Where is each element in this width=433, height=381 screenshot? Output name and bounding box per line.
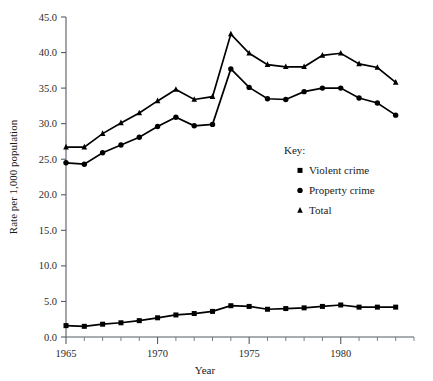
legend-label-property-crime: Property crime: [309, 184, 375, 196]
legend-marker-triangle: [297, 207, 303, 213]
marker-square-1973: [210, 309, 215, 314]
marker-circle-1966: [82, 162, 87, 167]
marker-square-1968: [118, 320, 123, 325]
y-tick-label-40.0: 40.0: [39, 47, 57, 58]
marker-circle-1972: [192, 123, 197, 128]
x-tick-label-1970: 1970: [147, 348, 168, 359]
marker-square-1974: [228, 303, 233, 308]
crime-rate-line-chart: 0.05.010.015.020.025.030.035.040.045.0 1…: [0, 0, 433, 381]
x-tick-label-1980: 1980: [330, 348, 351, 359]
marker-circle-1976: [265, 96, 270, 101]
marker-circle-1982: [375, 100, 380, 105]
data-series-group: [63, 31, 398, 329]
legend-marker-circle: [297, 188, 302, 193]
marker-square-1976: [265, 307, 270, 312]
series-property-crime: [63, 66, 398, 167]
marker-square-1969: [137, 318, 142, 323]
marker-circle-1977: [283, 97, 288, 102]
marker-circle-1983: [393, 112, 398, 117]
y-axis-title: Rate per 1,000 population: [7, 119, 19, 234]
series-line-1: [66, 69, 396, 164]
marker-square-1970: [155, 315, 160, 320]
marker-circle-1971: [173, 115, 178, 120]
legend-label-total: Total: [309, 204, 331, 216]
marker-triangle-1971: [173, 86, 179, 92]
marker-circle-1974: [228, 66, 233, 71]
marker-triangle-1974: [228, 31, 234, 37]
chart-canvas: 0.05.010.015.020.025.030.035.040.045.0 1…: [0, 0, 433, 381]
marker-square-1965: [64, 323, 69, 328]
marker-square-1967: [100, 322, 105, 327]
marker-square-1979: [320, 304, 325, 309]
series-violent-crime: [64, 303, 399, 329]
marker-square-1983: [393, 305, 398, 310]
marker-circle-1981: [356, 95, 361, 100]
series-total: [63, 31, 398, 150]
marker-square-1980: [338, 303, 343, 308]
y-tick-label-30.0: 30.0: [39, 118, 57, 129]
y-tick-label-25.0: 25.0: [39, 154, 57, 165]
x-axis: 1965197019751980: [56, 337, 415, 359]
marker-circle-1965: [63, 160, 68, 165]
x-tick-label-1975: 1975: [239, 348, 260, 359]
marker-square-1975: [247, 304, 252, 309]
y-tick-label-15.0: 15.0: [39, 225, 57, 236]
marker-square-1971: [173, 312, 178, 317]
marker-square-1978: [302, 305, 307, 310]
marker-square-1977: [283, 306, 288, 311]
x-axis-title: Year: [195, 364, 216, 376]
y-tick-label-20.0: 20.0: [39, 189, 57, 200]
marker-circle-1979: [320, 85, 325, 90]
marker-circle-1968: [118, 142, 123, 147]
marker-square-1972: [192, 311, 197, 316]
marker-circle-1975: [246, 85, 251, 90]
marker-circle-1969: [137, 134, 142, 139]
y-tick-label-35.0: 35.0: [39, 83, 57, 94]
marker-square-1981: [357, 305, 362, 310]
marker-circle-1967: [100, 150, 105, 155]
legend-title: Key:: [284, 144, 305, 156]
marker-square-1982: [375, 305, 380, 310]
legend-marker-square: [298, 168, 303, 173]
x-tick-label-1965: 1965: [56, 348, 77, 359]
y-tick-label-45.0: 45.0: [39, 12, 57, 23]
y-axis: 0.05.010.015.020.025.030.035.040.045.0: [39, 12, 66, 343]
legend-label-violent-crime: Violent crime: [309, 164, 369, 176]
chart-legend: Key:Violent crimeProperty crimeTotal: [284, 144, 375, 216]
marker-circle-1980: [338, 85, 343, 90]
y-tick-label-10.0: 10.0: [39, 260, 57, 271]
marker-circle-1970: [155, 124, 160, 129]
marker-square-1966: [82, 324, 87, 329]
y-tick-label-5.0: 5.0: [44, 296, 57, 307]
marker-circle-1973: [210, 122, 215, 127]
marker-circle-1978: [301, 89, 306, 94]
y-tick-label-0.0: 0.0: [44, 332, 57, 343]
